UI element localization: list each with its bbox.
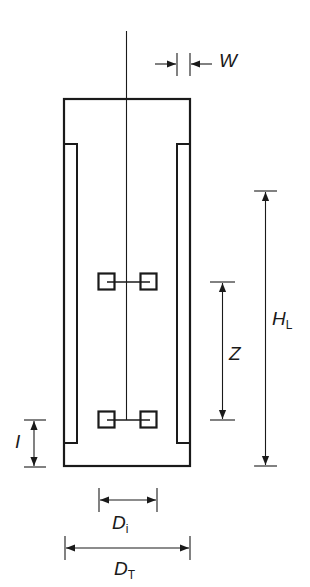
label-i-main: I (15, 431, 20, 452)
dimension-di (99, 488, 157, 512)
impeller-lower (99, 412, 157, 428)
label-di-sub: i (126, 522, 129, 536)
label-z: Z (229, 344, 241, 363)
label-dt: DT (114, 559, 135, 581)
impeller-upper (99, 274, 157, 290)
label-dt-sub: T (128, 568, 135, 582)
stirred-tank-diagram (0, 0, 310, 587)
label-w: W (219, 51, 237, 70)
dimension-dt (65, 536, 190, 560)
label-hl-main: H (272, 308, 286, 329)
label-di: Di (112, 513, 128, 535)
dimension-i (24, 420, 46, 467)
label-i: I (15, 432, 20, 451)
dimension-w (155, 53, 212, 76)
baffle-left (64, 144, 77, 443)
label-hl: HL (272, 309, 292, 331)
label-z-main: Z (229, 343, 241, 364)
baffle-right (177, 144, 190, 443)
label-hl-sub: L (286, 318, 293, 332)
label-dt-main: D (114, 558, 128, 579)
label-w-main: W (219, 50, 237, 71)
label-di-main: D (112, 512, 126, 533)
